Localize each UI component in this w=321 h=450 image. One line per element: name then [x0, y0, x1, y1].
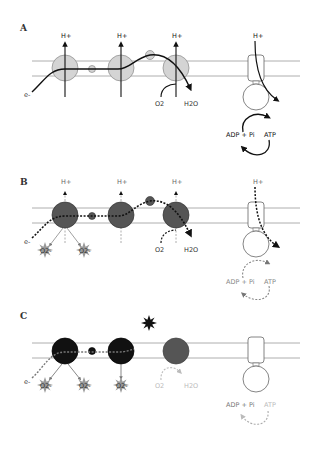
panel-label-a: A — [19, 23, 28, 33]
panel-b: B H+ H+ H+ e- O2- O2- O2 H2O — [20, 177, 300, 300]
proton-label: H+ — [253, 178, 263, 186]
ros-leak-arrow — [50, 228, 63, 245]
water-label: H2O — [184, 382, 198, 390]
proton-label: H+ — [172, 32, 182, 40]
oxygen-label: O2 — [155, 246, 164, 254]
oxygen-reduction-arrow — [161, 230, 176, 243]
proton-label: H+ — [253, 32, 263, 40]
complex-i — [52, 202, 78, 228]
svg-text:O2-: O2- — [79, 247, 91, 255]
atp-label: ATP — [264, 131, 276, 139]
oxygen-reduction-arrow — [161, 84, 176, 97]
complex-iii — [108, 202, 134, 228]
superoxide-radical: O2- — [113, 377, 129, 393]
ros-leak-arrow — [68, 364, 80, 379]
oxygen-label: O2 — [155, 100, 164, 108]
svg-text:O2-: O2- — [79, 382, 91, 390]
water-label: H2O — [184, 100, 198, 108]
atp-cycle-arrow — [242, 411, 268, 424]
atp-synthesis-arrow — [243, 260, 268, 278]
inhibitor-icon — [141, 315, 157, 331]
proton-label: H+ — [172, 178, 182, 186]
atp-synthesis-arrow — [243, 114, 268, 132]
ros-leak-arrow — [50, 364, 62, 379]
atp-label: ATP — [264, 278, 276, 286]
adp-pi-label: ADP + Pi — [226, 401, 255, 409]
electron-label: e- — [24, 238, 31, 246]
atp-synthase-fo — [248, 337, 264, 363]
proton-label: H+ — [61, 32, 71, 40]
electron-label: e- — [24, 378, 31, 386]
adp-pi-label: ADP + Pi — [226, 131, 255, 139]
oxygen-reduction-arrow — [161, 368, 180, 380]
panel-c: C e- O2- O2- O2- O2 H2O — [20, 311, 300, 424]
panel-label-b: B — [20, 177, 28, 187]
ros-leak-arrow — [67, 228, 80, 245]
oxygen-label: O2 — [155, 382, 164, 390]
atp-synthase-f1 — [243, 231, 269, 257]
electron-label: e- — [24, 91, 31, 99]
superoxide-radical: O2- — [76, 242, 92, 258]
water-label: H2O — [184, 246, 198, 254]
svg-text:O2-: O2- — [40, 247, 52, 255]
atp-label: ATP — [264, 401, 276, 409]
atp-synthase-stalk — [253, 363, 259, 366]
panel-label-c: C — [20, 311, 27, 321]
atp-cycle-arrow — [243, 140, 269, 155]
superoxide-radical: O2- — [37, 377, 53, 393]
proton-label: H+ — [117, 32, 127, 40]
svg-text:O2-: O2- — [40, 382, 52, 390]
complex-iv — [163, 338, 189, 364]
electron-transport-chain-diagram: A H+ H+ H+ e- O2 H2O H+ ADP + Pi ATP — [0, 0, 321, 450]
ubiquinone — [89, 348, 96, 355]
complex-iv — [163, 202, 189, 228]
proton-label: H+ — [61, 178, 71, 186]
atp-synthase-f1 — [243, 366, 269, 392]
atp-synthase-stalk — [253, 228, 259, 231]
atp-synthase-stalk — [253, 81, 259, 84]
adp-pi-label: ADP + Pi — [226, 278, 255, 286]
proton-label: H+ — [117, 178, 127, 186]
atp-cycle-arrow — [243, 286, 269, 300]
panel-a: A H+ H+ H+ e- O2 H2O H+ ADP + Pi ATP — [19, 23, 300, 155]
svg-text:O2-: O2- — [116, 382, 128, 390]
complex-iii — [108, 338, 134, 364]
superoxide-radical: O2- — [76, 377, 92, 393]
complex-i — [52, 338, 78, 364]
